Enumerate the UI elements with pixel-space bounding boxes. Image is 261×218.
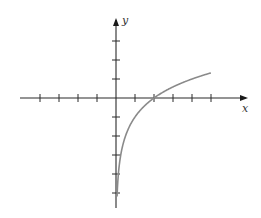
graph: x y [0, 0, 261, 218]
log-curve [117, 73, 211, 197]
x-axis-label: x [242, 102, 249, 115]
y-axis-label: y [121, 14, 129, 27]
